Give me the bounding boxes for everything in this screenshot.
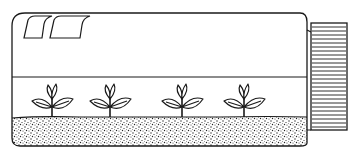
seedlings [32,84,265,117]
seedling-icon [224,84,265,117]
soil-layer [12,117,307,151]
bottle-terrarium-illustration [0,0,359,154]
seedling-icon [162,84,203,117]
bottle-cap [311,23,347,130]
seedling-icon [32,84,73,117]
glass-highlight-icon [24,16,90,38]
seedling-icon [90,84,131,117]
